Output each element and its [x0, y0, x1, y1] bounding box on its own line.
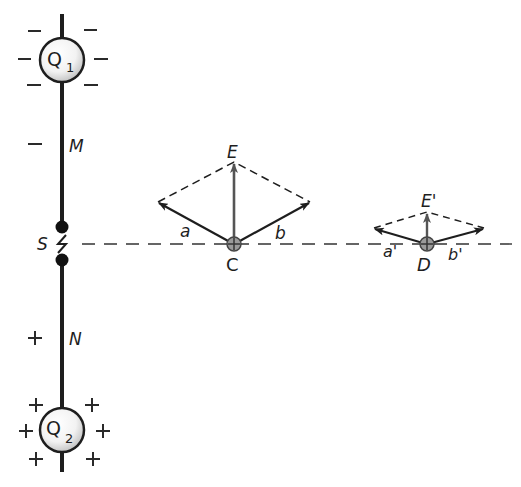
point-c-vectors: E a b C [158, 142, 310, 275]
charge-q1: Q 1 [40, 38, 84, 82]
gap-ball-lower [56, 254, 69, 267]
vector-a-prime [375, 229, 423, 243]
label-e: E [227, 142, 238, 162]
spark-icon [58, 235, 66, 253]
charge-q2: Q 2 [40, 408, 84, 452]
label-s: S [37, 234, 48, 254]
gap-ball-upper [56, 221, 69, 234]
vector-b-prime [431, 229, 483, 243]
q1-subscript: 1 [66, 60, 74, 75]
q2-subscript: 2 [65, 431, 73, 446]
spark-gap: S [37, 221, 69, 267]
vector-b [238, 203, 309, 242]
label-a-prime: a' [383, 242, 397, 261]
label-d: D [417, 254, 431, 275]
vector-a [159, 203, 230, 242]
label-b: b [275, 223, 286, 243]
label-a: a [180, 221, 190, 241]
parallelogram-d [374, 212, 484, 228]
q1-label: Q [47, 48, 62, 70]
label-e-prime: E' [421, 191, 436, 211]
electric-field-diagram: S Q 1 Q 2 M N [0, 0, 521, 487]
label-c: C [226, 254, 239, 275]
q2-label: Q [46, 417, 61, 439]
label-n: N [69, 329, 82, 349]
label-b-prime: b' [448, 245, 463, 264]
point-d-vectors: E' a' b' D [374, 191, 484, 275]
label-m: M [69, 136, 84, 156]
